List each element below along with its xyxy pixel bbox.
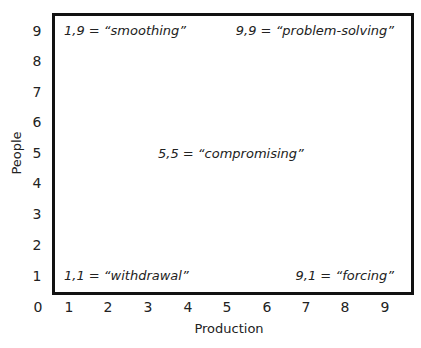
y-tick-7: 7 xyxy=(29,84,45,100)
annotation-withdrawal: 1,1 = “withdrawal” xyxy=(64,268,189,284)
annotation-problem-solving: 9,9 = “problem-solving” xyxy=(236,23,394,39)
x-tick-6: 6 xyxy=(257,299,277,315)
x-tick-9: 9 xyxy=(375,299,395,315)
y-tick-8: 8 xyxy=(29,53,45,69)
annotation-smoothing: 1,9 = “smoothing” xyxy=(64,23,186,39)
x-tick-4: 4 xyxy=(178,299,198,315)
y-axis-label: People xyxy=(9,131,24,174)
annotation-forcing: 9,1 = “forcing” xyxy=(296,268,394,284)
y-tick-5: 5 xyxy=(29,145,45,161)
x-axis-label: Production xyxy=(194,321,263,336)
x-tick-3: 3 xyxy=(138,299,158,315)
x-tick-2: 2 xyxy=(98,299,118,315)
y-tick-4: 4 xyxy=(29,175,45,191)
origin-tick-0: 0 xyxy=(28,299,48,315)
x-tick-7: 7 xyxy=(296,299,316,315)
x-tick-8: 8 xyxy=(335,299,355,315)
y-tick-6: 6 xyxy=(29,114,45,130)
y-tick-3: 3 xyxy=(29,206,45,222)
y-tick-1: 1 xyxy=(29,268,45,284)
y-tick-9: 9 xyxy=(29,23,45,39)
x-tick-1: 1 xyxy=(59,299,79,315)
y-tick-2: 2 xyxy=(29,237,45,253)
x-tick-5: 5 xyxy=(217,299,237,315)
annotation-compromising: 5,5 = “compromising” xyxy=(158,146,304,162)
